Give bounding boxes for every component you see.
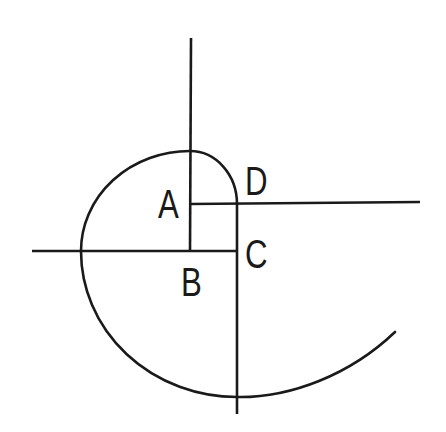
- label-c: C: [245, 234, 268, 274]
- spiral-arc-4: [237, 332, 395, 397]
- spiral-diagram: [0, 0, 446, 432]
- spiral-arc-3: [81, 251, 237, 397]
- label-a: A: [158, 184, 179, 224]
- spiral-arc-1: [190, 151, 237, 204]
- diagram-canvas: A D C B: [0, 0, 446, 432]
- label-d: D: [245, 161, 268, 201]
- label-b: B: [181, 262, 202, 302]
- vertical-line-ab: [190, 38, 191, 251]
- horizontal-line-ad: [190, 202, 420, 204]
